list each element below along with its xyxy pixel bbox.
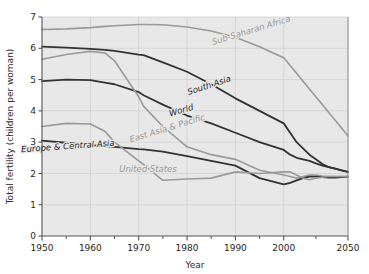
y-tick-label: 7 bbox=[30, 12, 36, 22]
x-tick-label: 1990 bbox=[224, 243, 247, 253]
x-tick-label: 1970 bbox=[127, 243, 150, 253]
y-tick-label: 4 bbox=[30, 106, 36, 116]
chart-figure: Sub-Saharan AfricaSub-Saharan AfricaSout… bbox=[0, 0, 369, 274]
x-axis-ticks: 1950196019701980199020002050 bbox=[31, 236, 360, 253]
y-tick-label: 6 bbox=[30, 43, 36, 53]
x-tick-label: 1960 bbox=[79, 243, 102, 253]
y-tick-label: 2 bbox=[30, 169, 36, 179]
y-tick-label: 0 bbox=[30, 231, 36, 241]
fertility-line-chart: Sub-Saharan AfricaSub-Saharan AfricaSout… bbox=[0, 0, 369, 274]
y-tick-label: 1 bbox=[30, 200, 36, 210]
y-axis-title: Total fertility (children per woman) bbox=[5, 49, 15, 206]
y-axis-ticks: 01234567 bbox=[30, 12, 42, 241]
x-tick-label: 2000 bbox=[272, 243, 295, 253]
x-tick-label: 2050 bbox=[337, 243, 360, 253]
series-label-united-states: United States bbox=[119, 164, 177, 174]
y-tick-label: 3 bbox=[30, 137, 36, 147]
plot-background bbox=[42, 17, 348, 236]
x-tick-label: 1950 bbox=[31, 243, 54, 253]
x-tick-label: 1980 bbox=[176, 243, 199, 253]
x-axis-title: Year bbox=[184, 260, 204, 270]
y-tick-label: 5 bbox=[30, 75, 36, 85]
